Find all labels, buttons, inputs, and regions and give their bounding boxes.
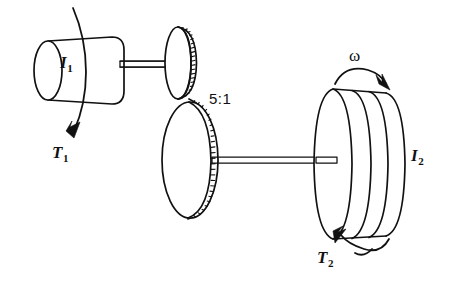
label-torque-1: T1: [52, 144, 68, 161]
label-inertia-2: I2: [411, 147, 423, 164]
pinion-gear: [165, 27, 197, 99]
label-gear-ratio: 5:1: [209, 91, 231, 106]
label-angular-velocity: ω: [349, 47, 360, 64]
omega-arrow: [335, 69, 390, 90]
diagram-canvas: [0, 0, 449, 283]
large-gear: [162, 99, 218, 219]
mechanical-system-diagram: I1 T1 5:1 ω I2 T2: [0, 0, 449, 283]
label-torque-2: T2: [317, 249, 333, 266]
left-rotor-cylinder: [34, 37, 124, 104]
label-inertia-1: I1: [60, 54, 72, 71]
right-rotor-disc-stack: [314, 89, 405, 239]
